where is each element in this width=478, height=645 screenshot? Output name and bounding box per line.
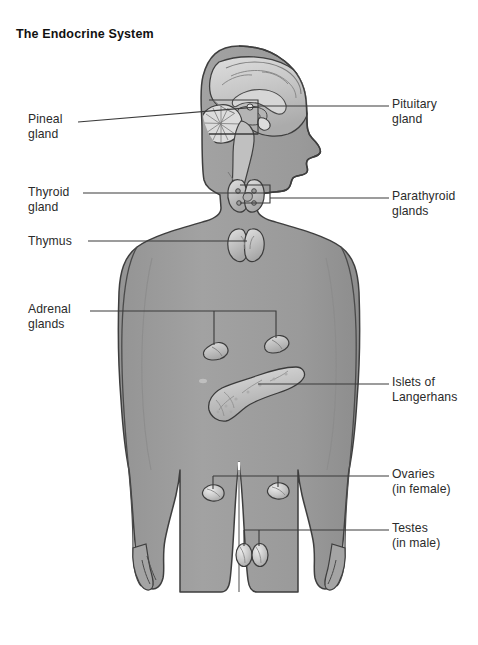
- label-testes: Testes (in male): [392, 521, 440, 550]
- label-parathyroid-glands: Parathyroid glands: [392, 189, 455, 218]
- label-islets-of-langerhans: Islets of Langerhans: [392, 375, 457, 404]
- testis-right: [252, 544, 268, 567]
- endocrine-system-figure: The Endocrine System: [0, 0, 478, 645]
- label-adrenal-glands: Adrenal glands: [28, 302, 71, 331]
- label-thymus: Thymus: [28, 234, 72, 249]
- label-ovaries: Ovaries (in female): [392, 467, 451, 496]
- testis-left: [236, 544, 252, 567]
- label-pituitary-gland: Pituitary gland: [392, 97, 437, 126]
- label-pineal-gland: Pineal gland: [28, 112, 62, 141]
- thymus: [228, 229, 264, 262]
- label-thyroid-gland: Thyroid gland: [28, 185, 69, 214]
